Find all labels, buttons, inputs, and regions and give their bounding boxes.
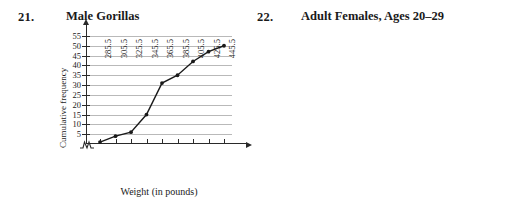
question-number-21: 21. <box>18 10 34 25</box>
data-point <box>145 113 149 117</box>
y-tick-label: 50 <box>73 42 82 51</box>
y-tick-label: 55 <box>73 32 82 41</box>
series-line <box>100 46 224 142</box>
chart-title-22: Adult Females, Ages 20–29 <box>301 9 444 24</box>
y-tick-label: 35 <box>73 71 82 80</box>
axis-break-icon-21 <box>79 138 95 150</box>
y-axis-arrow-21 <box>83 19 89 25</box>
data-point <box>207 50 211 54</box>
question-number-22: 22. <box>257 10 273 25</box>
y-tick-label: 25 <box>73 91 82 100</box>
plot-area-21: 510152025303540455055 285.5305.5325.5345… <box>86 32 232 144</box>
chart-title-21: Male Gorillas <box>66 9 139 24</box>
data-point <box>176 73 180 77</box>
data-point <box>98 140 102 144</box>
x-axis-label-21: Weight (in pounds) <box>121 186 198 197</box>
y-tick-label: 20 <box>73 100 82 109</box>
data-series-21 <box>86 32 232 144</box>
chart-panel-21: 21. Male Gorillas Cumulative frequency 5… <box>0 0 252 212</box>
x-axis-arrow-21 <box>246 142 252 148</box>
y-tick-label: 10 <box>73 120 82 129</box>
y-tick-label: 40 <box>73 61 82 70</box>
y-axis-label-21: Cumulative frequency <box>58 68 68 148</box>
data-point <box>129 130 133 134</box>
y-tick-label: 45 <box>73 51 82 60</box>
figure-pair: 21. Male Gorillas Cumulative frequency 5… <box>0 0 505 212</box>
data-point <box>160 81 164 85</box>
chart-panel-22: 22. Adult Females, Ages 20–29 Cumulative… <box>253 0 505 212</box>
data-point <box>191 60 195 64</box>
y-tick-label: 30 <box>73 81 82 90</box>
data-point <box>114 134 118 138</box>
data-point <box>222 44 226 48</box>
y-tick-label: 15 <box>73 110 82 119</box>
